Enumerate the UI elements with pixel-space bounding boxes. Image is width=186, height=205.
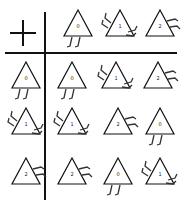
cell-1-0: 1: [52, 104, 92, 148]
triangle-label: 2: [140, 23, 180, 29]
triangle-label: 1: [100, 23, 140, 29]
triangle-label: 2: [138, 75, 178, 81]
header-row-0: 0: [6, 58, 46, 102]
header-row-1: 1: [6, 104, 46, 148]
plus-operator-icon: [10, 20, 36, 46]
triangle-label: 2: [6, 171, 46, 177]
triangle-label: 0: [140, 121, 180, 127]
triangle-label: 2: [52, 171, 92, 177]
triangle-label: 1: [96, 75, 136, 81]
triangle-label: 0: [58, 23, 98, 29]
cell-2-0: 2: [52, 154, 92, 198]
triangle-label: 0: [52, 75, 92, 81]
triangle-label: 1: [140, 171, 180, 177]
triangle-label: 1: [52, 121, 92, 127]
triangle-label: 0: [6, 75, 46, 81]
triangle-label: 1: [6, 121, 46, 127]
cell-1-2: 0: [140, 104, 180, 148]
cell-0-1: 1: [96, 58, 136, 102]
cell-1-1: 2: [98, 104, 138, 148]
header-col-0: 0: [58, 6, 98, 50]
header-col-2: 2: [140, 6, 180, 50]
triangle-label: 0: [98, 171, 138, 177]
cell-0-2: 2: [138, 58, 178, 102]
triangle-label: 2: [98, 121, 138, 127]
cell-0-0: 0: [52, 58, 92, 102]
header-row-2: 2: [6, 154, 46, 198]
cayley-table: 0 1 2 0 1 2 0 1 2 1 2 0 2 0 1: [0, 0, 186, 205]
cell-2-1: 0: [98, 154, 138, 198]
header-col-1: 1: [100, 6, 140, 50]
horizontal-divider: [5, 52, 177, 54]
cell-2-2: 1: [140, 154, 180, 198]
